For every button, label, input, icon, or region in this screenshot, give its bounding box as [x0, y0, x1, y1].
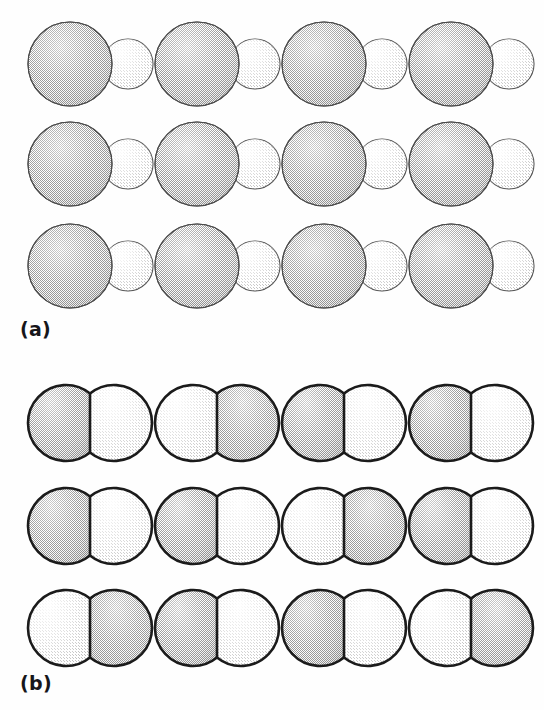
divided-cell	[155, 478, 284, 569]
budding-cell	[409, 20, 538, 112]
divided-cell	[409, 478, 538, 569]
figure-root: (a) (b)	[0, 0, 544, 710]
budding-cell	[28, 20, 157, 112]
budding-cell	[409, 222, 538, 314]
divided-cell	[155, 375, 284, 466]
divided-cell	[282, 375, 411, 466]
budding-cell	[282, 120, 411, 212]
divided-cell	[28, 580, 157, 671]
divided-cell	[155, 580, 284, 671]
budding-cell	[155, 20, 284, 112]
divided-cell	[28, 375, 157, 466]
divided-cell	[282, 478, 411, 569]
budding-cell	[28, 222, 157, 314]
divided-cell	[409, 580, 538, 671]
panel-a	[0, 0, 544, 360]
budding-cell	[28, 120, 157, 212]
budding-cell	[409, 120, 538, 212]
panel-a-label: (a)	[20, 318, 51, 340]
panel-b-label: (b)	[20, 672, 52, 694]
divided-cell	[28, 478, 157, 569]
divided-cell	[282, 580, 411, 671]
budding-cell	[155, 120, 284, 212]
budding-cell	[282, 20, 411, 112]
budding-cell	[282, 222, 411, 314]
budding-cell	[155, 222, 284, 314]
divided-cell	[409, 375, 538, 466]
panel-b	[0, 360, 544, 710]
